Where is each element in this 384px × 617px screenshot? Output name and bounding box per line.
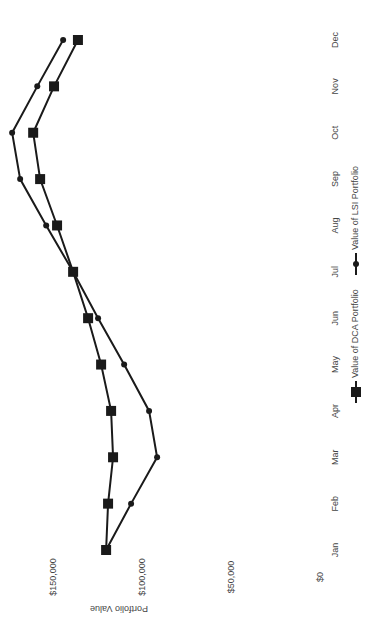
- series-line: [33, 40, 113, 550]
- line-chart: $0$50,000$100,000$150,000 Portfolio Valu…: [0, 0, 384, 617]
- x-tick-label: Oct: [330, 125, 340, 140]
- legend-label: Value of DCA Portfolio: [350, 289, 360, 378]
- series-dca: [28, 35, 118, 555]
- x-axis-ticks: JanFebMarAprMayJunJulAugSepOctNovDec: [330, 32, 340, 558]
- legend-square-marker: [351, 387, 361, 397]
- data-point-square: [83, 313, 93, 323]
- x-tick-label: Dec: [330, 32, 340, 49]
- y-tick-label: $50,000: [226, 561, 236, 594]
- x-tick-label: Feb: [330, 496, 340, 512]
- data-point-square: [49, 81, 59, 91]
- data-point-circle: [70, 269, 76, 275]
- data-point-circle: [17, 176, 23, 182]
- legend-item: Value of LSI Portfolio: [350, 166, 360, 275]
- x-tick-label: Nov: [330, 78, 340, 95]
- series-lsi: [9, 37, 160, 553]
- data-point-circle: [121, 362, 127, 368]
- data-point-square: [106, 406, 116, 416]
- data-point-square: [52, 220, 62, 230]
- data-point-circle: [103, 547, 109, 553]
- x-tick-label: Sep: [330, 171, 340, 187]
- legend: Value of DCA PortfolioValue of LSI Portf…: [350, 166, 361, 403]
- x-tick-label: May: [330, 356, 340, 374]
- x-tick-label: Apr: [330, 404, 340, 418]
- x-tick-label: Jun: [330, 311, 340, 326]
- data-point-circle: [146, 408, 152, 414]
- data-point-circle: [154, 454, 160, 460]
- data-point-square: [28, 128, 38, 138]
- data-point-square: [73, 35, 83, 45]
- data-point-square: [108, 452, 118, 462]
- data-point-circle: [34, 83, 40, 89]
- data-point-circle: [43, 222, 49, 228]
- data-point-circle: [9, 130, 15, 136]
- y-tick-label: $0: [315, 572, 325, 582]
- x-tick-label: Aug: [330, 217, 340, 233]
- series-line: [12, 40, 157, 550]
- data-point-square: [35, 174, 45, 184]
- data-point-square: [96, 360, 106, 370]
- legend-circle-marker: [353, 261, 359, 267]
- data-point-circle: [60, 37, 66, 43]
- data-point-circle: [128, 501, 134, 507]
- series-layer: [9, 35, 160, 555]
- x-tick-label: Jul: [330, 266, 340, 278]
- x-tick-label: Jan: [330, 543, 340, 558]
- y-tick-label: $100,000: [137, 558, 147, 596]
- data-point-square: [103, 499, 113, 509]
- y-axis-title: Portfolio Value: [90, 604, 148, 614]
- data-point-circle: [95, 315, 101, 321]
- y-tick-label: $150,000: [48, 558, 58, 596]
- x-tick-label: Mar: [330, 450, 340, 466]
- legend-label: Value of LSI Portfolio: [350, 166, 360, 250]
- legend-item: Value of DCA Portfolio: [350, 289, 361, 403]
- chart-container: $0$50,000$100,000$150,000 Portfolio Valu…: [0, 0, 384, 617]
- y-axis-ticks: $0$50,000$100,000$150,000: [48, 558, 326, 596]
